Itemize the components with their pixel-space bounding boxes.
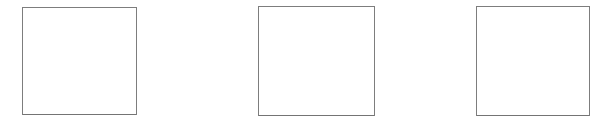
- empty-box-2[interactable]: [258, 6, 375, 116]
- empty-box-1-content: [23, 8, 136, 114]
- empty-box-1[interactable]: [22, 7, 137, 115]
- empty-box-3-content: [477, 7, 589, 115]
- empty-box-2-content: [259, 7, 374, 115]
- empty-box-3[interactable]: [476, 6, 590, 116]
- page-canvas: [0, 0, 613, 127]
